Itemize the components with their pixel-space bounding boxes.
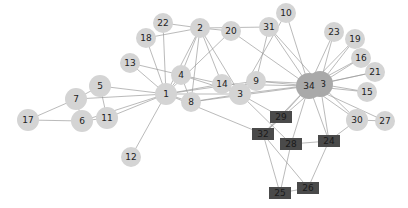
node-6[interactable]: 6 — [71, 110, 93, 132]
node-label: 15 — [361, 87, 372, 97]
node-label: 10 — [280, 8, 292, 18]
node-label: 19 — [349, 34, 361, 44]
node-20[interactable]: 20 — [221, 21, 241, 41]
node-23[interactable]: 23 — [324, 22, 344, 42]
node-25[interactable]: 25 — [269, 187, 291, 199]
node-label: 30 — [351, 115, 363, 125]
node-18[interactable]: 18 — [136, 28, 156, 48]
node-8[interactable]: 8 — [181, 92, 201, 112]
nodes-layer: 3341234567891011121314151617181920212223… — [17, 3, 395, 199]
node-label: 16 — [355, 53, 367, 63]
node-label: 12 — [125, 152, 136, 162]
node-26[interactable]: 26 — [297, 182, 319, 194]
node-label: 26 — [302, 183, 314, 193]
node-label: 28 — [285, 139, 297, 149]
node-12[interactable]: 12 — [121, 147, 141, 167]
node-label: 17 — [22, 115, 33, 125]
node-label: 24 — [323, 136, 335, 146]
node-30[interactable]: 30 — [346, 109, 368, 131]
edge-25-32 — [263, 134, 280, 193]
node-5[interactable]: 5 — [89, 75, 111, 97]
node-label: 31 — [263, 22, 274, 32]
node-19[interactable]: 19 — [345, 29, 365, 49]
node-31[interactable]: 31 — [259, 17, 279, 37]
edge-24-26 — [308, 141, 329, 188]
node-label: 14 — [216, 79, 228, 89]
node-label: 13 — [124, 58, 135, 68]
node-11[interactable]: 11 — [96, 107, 118, 129]
network-graph: 3341234567891011121314151617181920212223… — [0, 0, 408, 208]
edge-25-28 — [280, 144, 291, 193]
node-15[interactable]: 15 — [357, 82, 377, 102]
node-1[interactable]: 1 — [155, 83, 177, 105]
node-label: 7 — [73, 94, 79, 104]
node-17[interactable]: 17 — [17, 109, 39, 131]
node-4[interactable]: 4 — [171, 65, 191, 85]
node-label: 27 — [379, 116, 390, 126]
node-label: 6 — [79, 116, 85, 126]
node-32[interactable]: 32 — [252, 128, 274, 140]
node-label: 34 — [303, 81, 315, 91]
node-9[interactable]: 9 — [246, 71, 266, 91]
node-10[interactable]: 10 — [276, 3, 296, 23]
node-34[interactable]: 34 — [296, 73, 322, 99]
node-28[interactable]: 28 — [280, 138, 302, 150]
node-29[interactable]: 29 — [270, 111, 292, 123]
node-label: 11 — [101, 113, 112, 123]
node-27[interactable]: 27 — [375, 111, 395, 131]
node-label: 8 — [188, 97, 194, 107]
node-label: 5 — [97, 81, 103, 91]
node-label: 29 — [275, 112, 287, 122]
node-24[interactable]: 24 — [318, 135, 340, 147]
node-label: 20 — [225, 26, 237, 36]
node-label: 21 — [369, 67, 380, 77]
node-label: 25 — [274, 188, 285, 198]
node-label: 22 — [157, 18, 168, 28]
node-label: 9 — [253, 76, 259, 86]
node-13[interactable]: 13 — [120, 53, 140, 73]
node-label: 32 — [257, 129, 268, 139]
node-label: 18 — [140, 33, 152, 43]
node-label: 2 — [197, 23, 203, 33]
node-label: 23 — [328, 27, 339, 37]
node-2[interactable]: 2 — [190, 18, 210, 38]
node-label: 4 — [178, 70, 184, 80]
node-label: 3 — [237, 89, 243, 99]
node-21[interactable]: 21 — [365, 62, 385, 82]
node-7[interactable]: 7 — [65, 88, 87, 110]
node-label: 1 — [163, 89, 169, 99]
node-22[interactable]: 22 — [153, 13, 173, 33]
node-14[interactable]: 14 — [212, 74, 232, 94]
